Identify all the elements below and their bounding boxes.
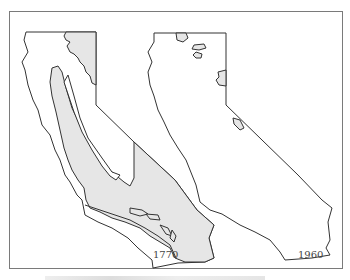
patch-north-2 — [192, 44, 206, 50]
cropped-caption — [45, 276, 265, 280]
california-maps — [0, 0, 350, 280]
year-label-1960: 1960 — [298, 249, 323, 260]
year-label-1770: 1770 — [153, 249, 178, 260]
